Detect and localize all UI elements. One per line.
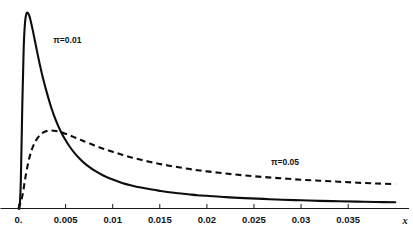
x-axis-label: x	[401, 215, 407, 226]
pi-005-label: π=0.05	[271, 157, 299, 167]
x-axis-ticks	[19, 204, 349, 209]
x-tick-label-4: 0.02	[198, 214, 217, 225]
x-tick-label-5: 0.025	[242, 214, 266, 225]
x-axis-tick-labels: 0.0.0050.010.0150.020.0250.030.035	[15, 214, 361, 225]
x-tick-label-7: 0.035	[336, 214, 360, 225]
x-tick-label-3: 0.015	[148, 214, 172, 225]
x-tick-label-0: 0.	[15, 214, 23, 225]
chart-container: 0.0.0050.010.0150.020.0250.030.035 π=0.0…	[0, 0, 413, 239]
x-tick-label-6: 0.03	[292, 214, 311, 225]
chart-plot: 0.0.0050.010.0150.020.0250.030.035 π=0.0…	[0, 0, 413, 239]
x-axis-name: x	[401, 215, 407, 226]
x-tick-label-1: 0.005	[54, 214, 78, 225]
x-tick-label-2: 0.01	[103, 214, 122, 225]
curve-annotations: π=0.01π=0.05	[53, 35, 299, 166]
pi-001-label: π=0.01	[53, 35, 81, 45]
